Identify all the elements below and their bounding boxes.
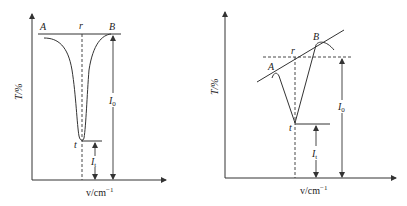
it-label: It (311, 148, 317, 161)
left-diagram: A r B t I0 It v/cm−1 T/% (13, 14, 166, 198)
figure-canvas: A r B t I0 It v/cm−1 T/% A r B t I0 It v… (0, 0, 407, 206)
point-t-label: t (74, 139, 77, 150)
point-r-label: r (291, 45, 295, 56)
absorption-band-curve (44, 34, 111, 140)
x-axis-label: v/cm−1 (86, 186, 114, 198)
tangent-baseline-ab (257, 30, 344, 82)
point-r-label: r (79, 20, 83, 31)
point-a-label: A (39, 21, 47, 32)
i0-label: I0 (337, 101, 345, 114)
x-axis-label: v/cm−1 (300, 184, 328, 196)
y-axis-label: T/% (209, 78, 220, 95)
point-b-label: B (109, 21, 115, 32)
right-diagram: A r B t I0 It v/cm−1 T/% (209, 12, 396, 196)
y-axis-label: T/% (13, 83, 24, 100)
point-a-label: A (267, 61, 275, 72)
point-t-label: t (289, 122, 292, 133)
it-label: It (90, 156, 96, 169)
point-b-label: B (313, 31, 319, 42)
i0-label: I0 (108, 95, 116, 108)
